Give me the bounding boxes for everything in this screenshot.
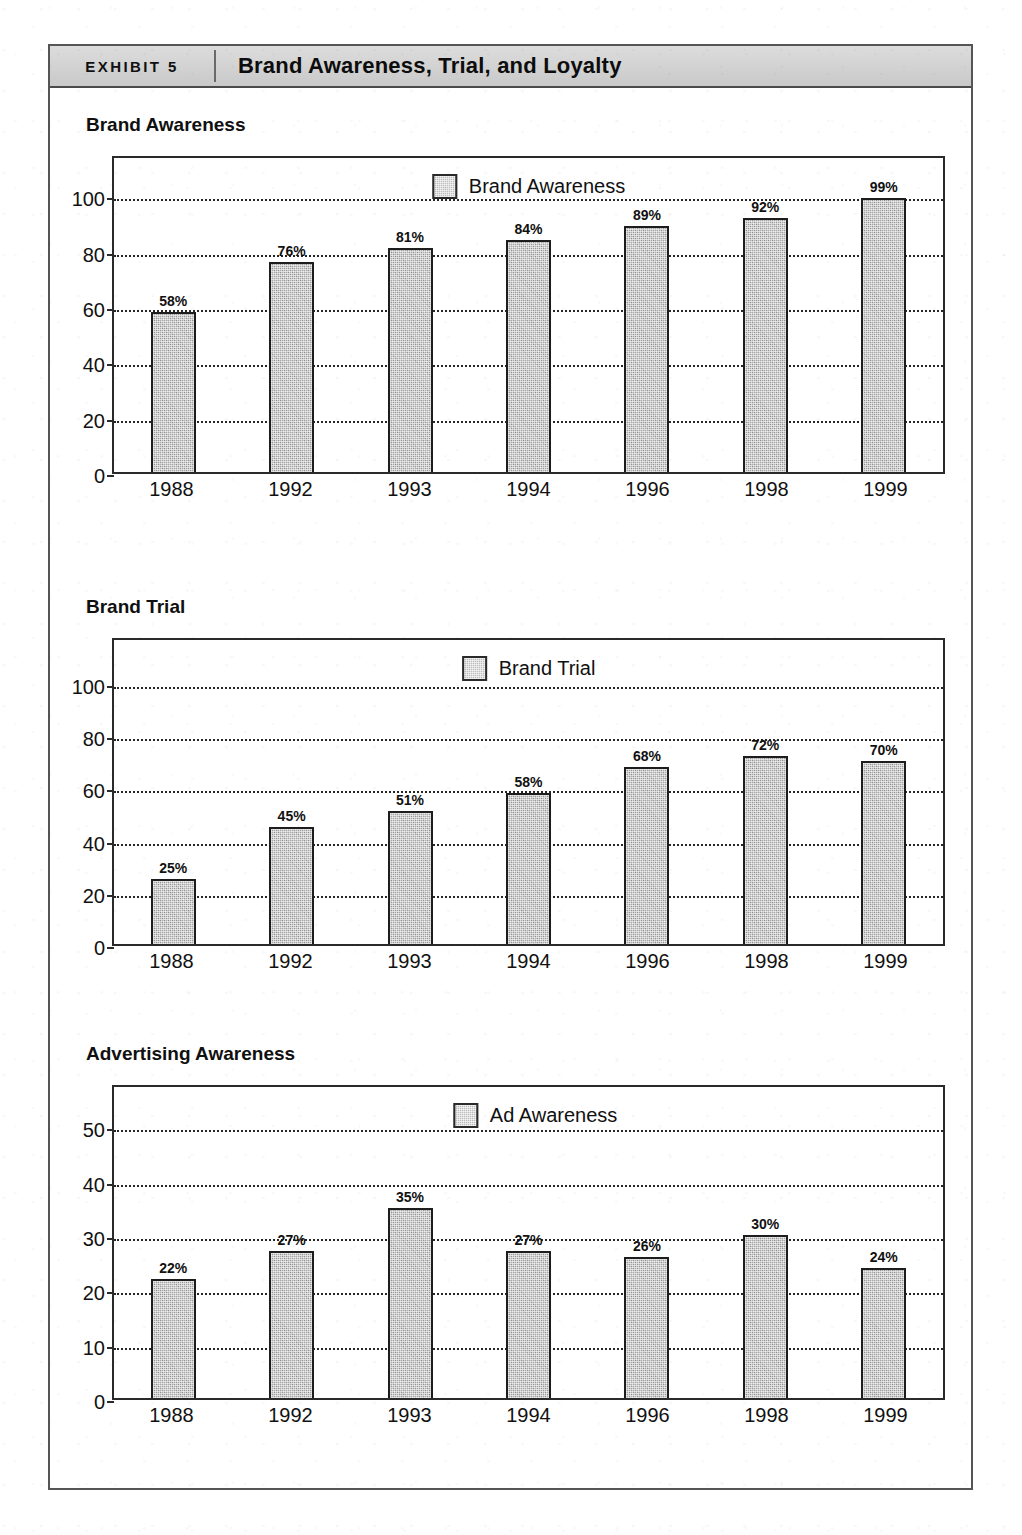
x-axis-label: 1998 bbox=[707, 478, 826, 501]
y-axis-label: 10 bbox=[83, 1336, 105, 1359]
bar[interactable]: 45% bbox=[269, 827, 314, 944]
bar-slot: 22% bbox=[114, 1087, 232, 1398]
y-axis-label: 80 bbox=[83, 243, 105, 266]
bar-value-label: 25% bbox=[159, 860, 187, 876]
bar[interactable]: 22% bbox=[151, 1279, 196, 1398]
bar[interactable]: 58% bbox=[151, 312, 196, 472]
legend-label: Brand Awareness bbox=[469, 175, 625, 198]
y-axis-label: 20 bbox=[83, 1282, 105, 1305]
bar-value-label: 26% bbox=[633, 1238, 661, 1254]
bar[interactable]: 81% bbox=[388, 248, 433, 472]
y-tick-mark bbox=[107, 1347, 114, 1349]
bar-slot: 27% bbox=[469, 1087, 587, 1398]
y-axis-label: 40 bbox=[83, 354, 105, 377]
x-axis-label: 1996 bbox=[588, 478, 707, 501]
bar[interactable]: 26% bbox=[624, 1257, 669, 1398]
y-tick-mark bbox=[107, 1129, 114, 1131]
y-axis-label: 50 bbox=[83, 1119, 105, 1142]
bar-slot: 51% bbox=[351, 640, 469, 944]
bar-value-label: 35% bbox=[396, 1189, 424, 1205]
bar[interactable]: 89% bbox=[624, 226, 669, 472]
exhibit-title: Brand Awareness, Trial, and Loyalty bbox=[216, 53, 622, 79]
y-tick-mark bbox=[107, 686, 114, 688]
x-axis-label: 1999 bbox=[826, 478, 945, 501]
x-axis-label: 1998 bbox=[707, 1404, 826, 1427]
bar-series: 25%45%51%58%68%72%70% bbox=[114, 640, 943, 944]
chart-legend: Brand Trial bbox=[462, 656, 596, 681]
bar-slot: 92% bbox=[706, 158, 824, 472]
chart-legend: Brand Awareness bbox=[432, 174, 625, 199]
bar-value-label: 45% bbox=[278, 808, 306, 824]
bar[interactable]: 84% bbox=[506, 240, 551, 472]
bar-value-label: 24% bbox=[870, 1249, 898, 1265]
x-axis-label: 1992 bbox=[231, 950, 350, 973]
y-tick-mark bbox=[107, 364, 114, 366]
y-axis-label: 0 bbox=[94, 1391, 105, 1414]
bar-slot: 24% bbox=[825, 1087, 943, 1398]
x-axis-label: 1996 bbox=[588, 950, 707, 973]
plot-area: 020406080100Brand Awareness58%76%81%84%8… bbox=[112, 156, 945, 474]
chart-heading: Brand Awareness bbox=[86, 114, 245, 136]
plot-area: 01020304050Ad Awareness22%27%35%27%26%30… bbox=[112, 1085, 945, 1400]
bar[interactable]: 27% bbox=[269, 1251, 314, 1398]
x-axis-label: 1992 bbox=[231, 478, 350, 501]
bar-slot: 27% bbox=[232, 1087, 350, 1398]
plot-area: 020406080100Brand Trial25%45%51%58%68%72… bbox=[112, 638, 945, 946]
bar[interactable]: 68% bbox=[624, 767, 669, 944]
x-axis-label: 1999 bbox=[826, 1404, 945, 1427]
y-axis-label: 0 bbox=[94, 937, 105, 960]
bar[interactable]: 27% bbox=[506, 1251, 551, 1398]
bar-slot: 58% bbox=[114, 158, 232, 472]
bar-slot: 35% bbox=[351, 1087, 469, 1398]
x-axis-label: 1993 bbox=[350, 478, 469, 501]
bar[interactable]: 99% bbox=[861, 198, 906, 472]
bar-slot: 72% bbox=[706, 640, 824, 944]
legend-swatch-icon bbox=[432, 174, 457, 199]
bar[interactable]: 70% bbox=[861, 761, 906, 944]
bar-value-label: 72% bbox=[751, 737, 779, 753]
y-tick-mark bbox=[107, 738, 114, 740]
bar-value-label: 99% bbox=[870, 179, 898, 195]
bar-value-label: 51% bbox=[396, 792, 424, 808]
bar[interactable]: 58% bbox=[506, 793, 551, 944]
bar[interactable]: 35% bbox=[388, 1208, 433, 1398]
exhibit-frame: EXHIBIT 5 Brand Awareness, Trial, and Lo… bbox=[48, 44, 973, 1490]
bar[interactable]: 51% bbox=[388, 811, 433, 944]
bar-slot: 84% bbox=[469, 158, 587, 472]
bar[interactable]: 72% bbox=[743, 756, 788, 944]
bar-slot: 89% bbox=[588, 158, 706, 472]
bar-slot: 81% bbox=[351, 158, 469, 472]
bar-value-label: 89% bbox=[633, 207, 661, 223]
bar[interactable]: 92% bbox=[743, 218, 788, 472]
y-axis-label: 40 bbox=[83, 1173, 105, 1196]
y-tick-mark bbox=[107, 843, 114, 845]
y-tick-mark bbox=[107, 420, 114, 422]
exhibit-header: EXHIBIT 5 Brand Awareness, Trial, and Lo… bbox=[50, 46, 971, 88]
bar-value-label: 27% bbox=[278, 1232, 306, 1248]
x-axis-label: 1994 bbox=[469, 478, 588, 501]
x-axis: 1988199219931994199619981999 bbox=[112, 950, 945, 973]
bar[interactable]: 76% bbox=[269, 262, 314, 472]
y-axis-label: 60 bbox=[83, 299, 105, 322]
bar-series: 58%76%81%84%89%92%99% bbox=[114, 158, 943, 472]
legend-swatch-icon bbox=[462, 656, 487, 681]
x-axis-label: 1994 bbox=[469, 950, 588, 973]
bar[interactable]: 25% bbox=[151, 879, 196, 944]
bar-slot: 30% bbox=[706, 1087, 824, 1398]
bar[interactable]: 30% bbox=[743, 1235, 788, 1398]
bar-series: 22%27%35%27%26%30%24% bbox=[114, 1087, 943, 1398]
bar-slot: 58% bbox=[469, 640, 587, 944]
x-axis-label: 1988 bbox=[112, 950, 231, 973]
y-axis-label: 60 bbox=[83, 780, 105, 803]
legend-label: Ad Awareness bbox=[490, 1104, 618, 1127]
x-axis: 1988199219931994199619981999 bbox=[112, 478, 945, 501]
bar[interactable]: 24% bbox=[861, 1268, 906, 1398]
charts-container: Brand Awareness020406080100Brand Awarene… bbox=[50, 88, 971, 1488]
x-axis-label: 1994 bbox=[469, 1404, 588, 1427]
y-tick-mark bbox=[107, 475, 114, 477]
x-axis-label: 1988 bbox=[112, 478, 231, 501]
chart-heading: Brand Trial bbox=[86, 596, 185, 618]
x-axis-label: 1992 bbox=[231, 1404, 350, 1427]
x-axis-label: 1998 bbox=[707, 950, 826, 973]
legend-label: Brand Trial bbox=[499, 657, 596, 680]
